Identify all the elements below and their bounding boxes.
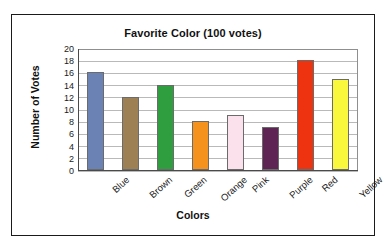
x-tick-label-brown: Brown [146,174,173,200]
x-tick-label-orange: Orange [218,174,249,203]
x-tick-label-yellow: Yellow [356,174,384,200]
x-tick-label-red: Red [319,174,339,194]
x-tick-label-green: Green [181,174,208,200]
y-tick-label: 0 [69,166,74,176]
y-tick-label: 4 [69,142,74,152]
y-tick-label: 6 [69,129,74,139]
y-tick-label: 18 [64,56,74,66]
bar-series [78,49,358,171]
y-tick-label: 8 [69,117,74,127]
bar-yellow [332,79,349,171]
chart-title: Favorite Color (100 votes) [12,27,374,39]
x-tick-label-purple: Purple [287,174,315,201]
bar-green [157,85,174,170]
bar-purple [262,127,279,170]
bar-pink [227,115,244,170]
bar-brown [122,97,139,170]
chart-figure: Favorite Color (100 votes) Number of Vot… [11,14,375,236]
y-tick-label: 16 [64,68,74,78]
y-tick-label: 14 [64,81,74,91]
y-tick-label: 20 [64,44,74,54]
y-tick-label: 10 [64,105,74,115]
bar-blue [87,72,104,170]
x-tick-label-pink: Pink [249,174,270,195]
bar-red [297,60,314,170]
x-tick-label-blue: Blue [109,174,130,195]
y-tick-label: 2 [69,154,74,164]
y-tick-label: 12 [64,93,74,103]
bar-orange [192,121,209,170]
y-axis-title: Number of Votes [29,57,41,157]
plot-area: 02468101214161820BlueBrownGreenOrangePin… [78,49,358,171]
x-axis-title: Colors [12,209,374,221]
